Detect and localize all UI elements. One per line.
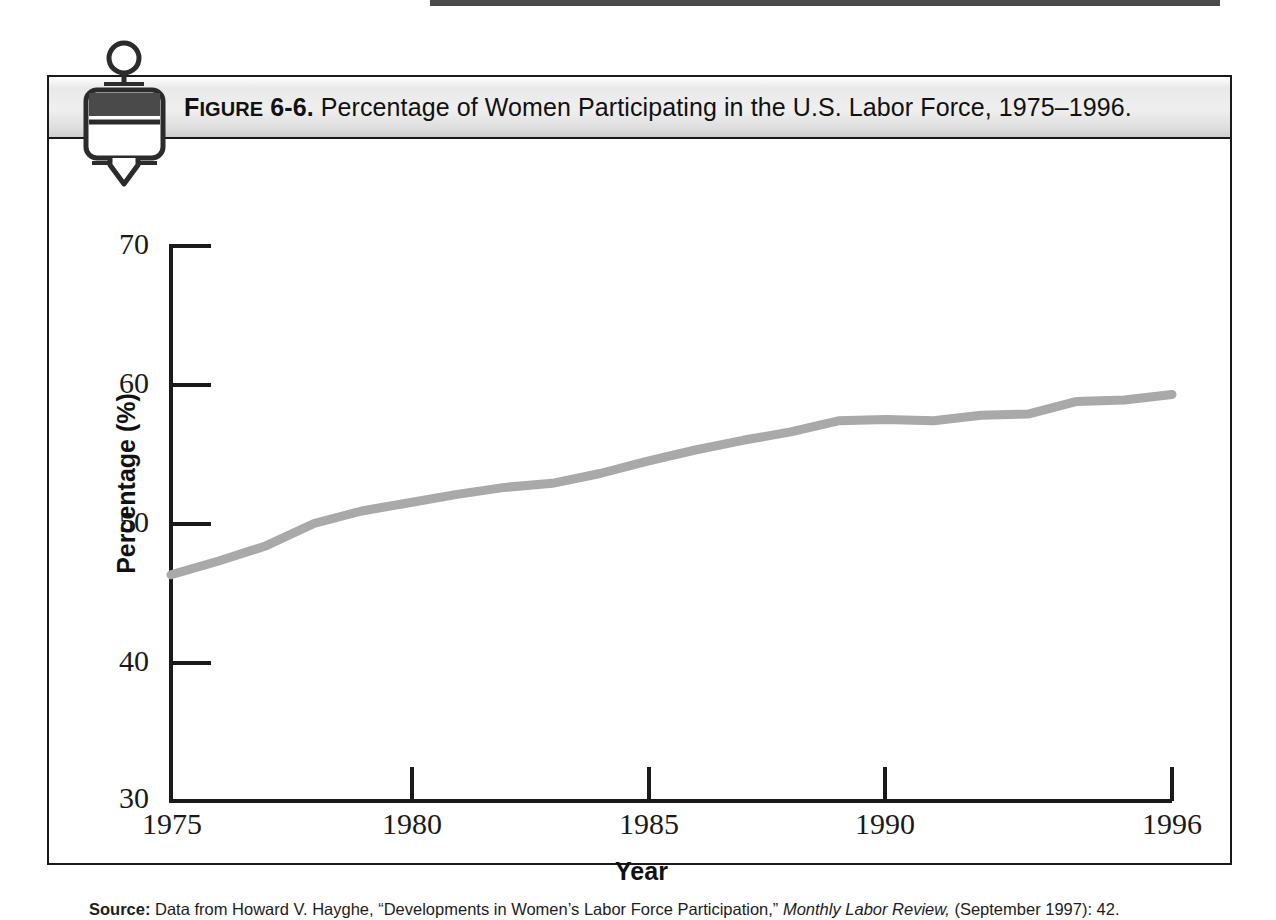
chart-plot-area: 70 60 50 40 30 1975 1980 1985 1990 1996 … xyxy=(49,139,1230,867)
figure-frame: FIGURE 6-6. Percentage of Women Particip… xyxy=(47,75,1232,865)
data-series-line xyxy=(171,395,1172,575)
source-label: Source: xyxy=(89,900,150,918)
x-tick-label-1990: 1990 xyxy=(840,807,930,841)
figure-title-bar: FIGURE 6-6. Percentage of Women Particip… xyxy=(49,77,1230,139)
page-edge-artifact xyxy=(430,0,1220,6)
figure-number: 6-6. xyxy=(263,93,314,121)
y-tick-label-40: 40 xyxy=(79,644,149,678)
x-tick-label-1980: 1980 xyxy=(367,807,457,841)
x-axis-ticks xyxy=(412,767,1172,801)
y-axis-ticks xyxy=(171,246,211,663)
figure-label-prefix: F xyxy=(184,93,199,121)
page-title: FIGURE 6-6. Percentage of Women Particip… xyxy=(184,93,1132,122)
x-axis-title: Year xyxy=(49,857,1234,886)
y-axis-title: Percentage (%) xyxy=(112,359,141,609)
source-text-before: Data from Howard V. Hayghe, “Development… xyxy=(150,900,782,918)
figure-label-smallcaps: IGURE xyxy=(199,98,263,120)
source-note: Source: Data from Howard V. Hayghe, “Dev… xyxy=(89,899,1199,920)
source-text-after: (September 1997): 42. xyxy=(950,900,1120,918)
x-tick-label-1996: 1996 xyxy=(1127,807,1217,841)
line-chart xyxy=(49,139,1234,867)
x-tick-label-1985: 1985 xyxy=(604,807,694,841)
source-publication: Monthly Labor Review, xyxy=(783,900,950,918)
figure-title-text: Percentage of Women Participating in the… xyxy=(314,93,1132,121)
y-tick-label-70: 70 xyxy=(79,227,149,261)
x-tick-label-1975: 1975 xyxy=(127,807,217,841)
